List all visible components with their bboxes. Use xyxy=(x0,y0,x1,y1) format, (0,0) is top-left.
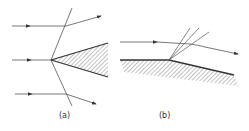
convex-corner-wall xyxy=(120,60,238,86)
panel-a xyxy=(12,8,108,106)
diagram-canvas xyxy=(0,0,249,131)
panel-b xyxy=(120,28,238,86)
streamline-bottom xyxy=(15,94,96,104)
wedge xyxy=(51,43,108,77)
panel-a-label: (a) xyxy=(59,111,70,120)
panel-b-label: (b) xyxy=(159,111,170,120)
streamline-b xyxy=(120,42,238,54)
streamline-top xyxy=(12,16,101,26)
